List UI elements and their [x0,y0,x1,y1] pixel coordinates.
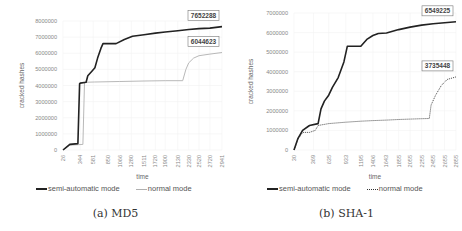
x-tick-label: 1643 [383,155,389,167]
sha1-caption: (b) SHA-1 [231,207,462,220]
md5-legend: semi-automatic mode normal mode [36,184,206,193]
end-value-label: 6044623 [191,38,217,45]
x-axis-label: time [136,173,149,180]
x-tick-label: 1511 [141,155,147,167]
x-tick-label: 1855 [396,155,402,167]
y-tick-label: 1000000 [35,131,57,137]
x-tick-label: 2520 [196,155,202,167]
y-tick-label: 0 [54,147,57,153]
y-tick-label: 1000000 [266,127,288,133]
figure-sha1: 0100000020000003000000400000050000006000… [231,0,462,231]
y-tick-label: 5000000 [35,66,57,72]
x-tick-label: 2255 [419,155,425,167]
legend-item-semi-automatic: semi-automatic mode [267,184,351,193]
y-tick-label: 2000000 [266,108,288,114]
series-line-semi-automatic-mode [294,22,456,150]
sha1-plot: 0100000020000003000000400000050000006000… [247,6,459,180]
y-axis-label: cracked hashes [18,62,25,108]
y-tick-label: 2000000 [35,115,57,121]
x-tick-label: 2130 [175,155,181,167]
x-tick-label: 30 [291,155,297,161]
x-tick-label: 1280 [128,155,134,167]
x-tick-label: 635 [326,155,332,164]
x-tick-label: 2941 [219,155,225,167]
x-tick-label: 1406 [370,155,376,167]
end-value-label: 3735448 [425,62,451,69]
x-tick-label: 2855 [453,155,459,167]
x-tick-label: 2655 [442,155,448,167]
x-tick-label: 26 [60,155,66,161]
series-line-normal-mode [294,77,456,150]
md5-chart: 0100000020000003000000400000050000006000… [0,0,231,231]
y-tick-label: 4000000 [266,69,288,75]
y-tick-label: 5000000 [266,49,288,55]
x-tick-label: 2330 [186,155,192,167]
x-tick-label: 933 [343,155,349,164]
legend-item-normal: normal mode [136,184,192,193]
legend-item-semi-automatic: semi-automatic mode [36,184,120,193]
x-tick-label: 1900 [162,155,168,167]
x-tick-label: 344 [77,155,83,164]
figure-md5: 0100000020000003000000400000050000006000… [0,0,231,231]
x-tick-label: 2455 [430,155,436,167]
x-tick-label: 581 [90,155,96,164]
solid-line-swatch-icon [36,188,47,190]
y-tick-label: 8000000 [35,18,57,24]
y-tick-label: 3000000 [266,88,288,94]
x-tick-label: 2055 [407,155,413,167]
x-tick-label: 850 [105,155,111,164]
x-tick-label: 1066 [117,155,123,167]
sha1-chart: 0100000020000003000000400000050000006000… [231,0,462,231]
legend-item-normal: normal mode [367,184,423,193]
y-tick-label: 6000000 [35,50,57,56]
y-tick-label: 6000000 [266,30,288,36]
dotted-line-swatch-icon [367,189,378,190]
sha1-legend: semi-automatic mode normal mode [267,184,437,193]
x-tick-label: 2720 [207,155,213,167]
light-line-swatch-icon [136,189,147,190]
y-tick-label: 7000000 [266,10,288,16]
y-tick-label: 0 [285,147,288,153]
y-tick-label: 4000000 [35,83,57,89]
solid-line-swatch-icon [267,188,278,190]
x-axis-label: time [369,173,382,180]
x-tick-label: 1195 [358,155,364,167]
end-value-label: 7652288 [191,12,217,19]
y-tick-label: 3000000 [35,99,57,105]
x-tick-label: 1720 [152,155,158,167]
y-axis-label: cracked hashes [247,58,254,104]
y-tick-label: 7000000 [35,34,57,40]
md5-plot: 0100000020000003000000400000050000006000… [18,11,225,180]
md5-caption: (a) MD5 [0,207,231,220]
x-tick-label: 369 [310,155,316,164]
series-line-normal-mode [63,53,222,151]
end-value-label: 6549225 [425,7,451,14]
